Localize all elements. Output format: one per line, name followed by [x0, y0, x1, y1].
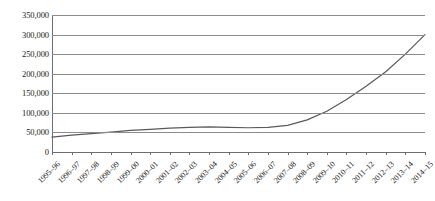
line-chart: 050,000100,000150,000200,000250,000300,0…	[0, 0, 432, 201]
x-axis-labels: 1995–961996–971997–981998–991999–002000–…	[0, 0, 432, 201]
